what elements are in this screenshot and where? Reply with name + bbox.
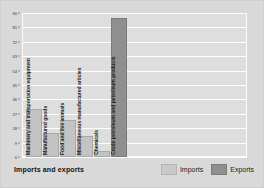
bar-category-label: Chemicals bbox=[93, 130, 99, 155]
y-axis-tick-mark bbox=[18, 128, 20, 129]
legend-label: Exports bbox=[230, 166, 254, 173]
y-axis-tick-mark bbox=[18, 157, 20, 158]
y-axis-tick-label: 0 bbox=[15, 155, 17, 160]
plot-area: Machinery and transportation equipmentMa… bbox=[22, 13, 247, 157]
y-axis-tick-mark bbox=[18, 13, 20, 14]
legend-entry[interactable]: Exports bbox=[211, 164, 254, 175]
bar-group: Machinery and transportation equipmentMa… bbox=[22, 13, 247, 157]
y-axis-tick-mark bbox=[18, 142, 20, 143]
y-axis-tick-label: 54 bbox=[13, 68, 17, 73]
legend: ImportsExports bbox=[161, 164, 254, 175]
y-axis-tick-mark bbox=[18, 70, 20, 71]
bar-category-label: Crude petroleum and petroleum products bbox=[110, 56, 116, 155]
bar-slot: Food and live animals bbox=[60, 13, 76, 157]
y-axis-tick-label: 9 bbox=[15, 140, 17, 145]
bar-slot: Machinery and transportation equipment bbox=[26, 13, 42, 157]
bar-slot: Manufactured goods bbox=[43, 13, 59, 157]
chart-footer: Imports and exports ImportsExports bbox=[0, 160, 264, 188]
y-axis-tick-label: 81 bbox=[13, 25, 17, 30]
y-axis-tick-mark bbox=[18, 85, 20, 86]
y-axis-tick-mark bbox=[18, 27, 20, 28]
legend-label: Imports bbox=[180, 166, 203, 173]
chart-title: Imports and exports bbox=[14, 166, 84, 173]
bar-category-label: Manufactured goods bbox=[42, 106, 48, 155]
y-axis-tick-mark bbox=[18, 56, 20, 57]
y-axis-tick-label: 90 bbox=[13, 11, 17, 16]
bar-slot: Miscellaneous manufactured articles bbox=[77, 13, 93, 157]
y-axis-tick-mark bbox=[18, 99, 20, 100]
y-axis-tick-label: 36 bbox=[13, 97, 17, 102]
y-axis-tick-mark bbox=[18, 113, 20, 114]
bar-slot: Crude petroleum and petroleum products bbox=[111, 13, 127, 157]
bar-category-label: Machinery and transportation equipment bbox=[25, 58, 31, 155]
y-axis-tick-label: 18 bbox=[13, 126, 17, 131]
legend-swatch bbox=[211, 164, 227, 175]
bar-chart-figure: Machinery and transportation equipmentMa… bbox=[0, 0, 264, 188]
legend-entry[interactable]: Imports bbox=[161, 164, 203, 175]
y-axis-tick-mark bbox=[18, 41, 20, 42]
y-axis-tick-label: 45 bbox=[13, 83, 17, 88]
gridline bbox=[22, 157, 247, 158]
y-axis-tick-label: 63 bbox=[13, 54, 17, 59]
bar-slot: Chemicals bbox=[94, 13, 110, 157]
y-axis-ticks: 09182736455463728190 bbox=[0, 13, 20, 157]
y-axis-tick-label: 27 bbox=[13, 111, 17, 116]
bar-category-label: Miscellaneous manufactured articles bbox=[76, 68, 82, 155]
y-axis-tick-label: 72 bbox=[13, 39, 17, 44]
bar-category-label: Food and live animals bbox=[59, 103, 65, 155]
legend-swatch bbox=[161, 164, 177, 175]
